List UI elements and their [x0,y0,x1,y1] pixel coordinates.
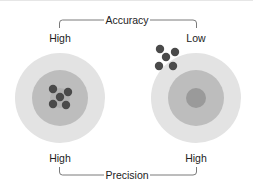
shot-dot [56,93,64,101]
shot-dot [171,48,179,56]
bullseye [186,88,206,108]
accuracy-precision-diagram: Accuracy High Low High High Pr [0,0,253,195]
precision-left-label: High [49,152,71,164]
target-left [15,53,105,143]
accuracy-right-label: Low [186,32,206,44]
shot-dot [49,100,57,108]
target-right [151,45,241,143]
precision-title: Precision [105,169,148,181]
shot-dot [49,85,57,93]
shot-dot [155,62,163,70]
shot-dot [64,88,72,96]
precision-right-label: High [185,152,207,164]
accuracy-title: Accuracy [105,14,149,26]
shot-dot [156,45,164,53]
shot-dot [162,53,170,61]
shot-dot [169,62,177,70]
accuracy-left-label: High [49,32,71,44]
shot-dot [62,101,70,109]
